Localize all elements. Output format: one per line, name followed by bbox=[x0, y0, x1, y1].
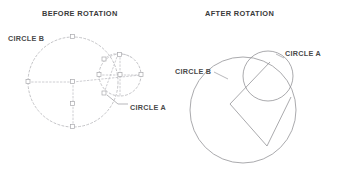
circle-b-leader-line bbox=[214, 72, 228, 79]
node-marker bbox=[71, 102, 75, 106]
circle-a-leader-line bbox=[107, 95, 128, 104]
rotation-wedge bbox=[230, 62, 291, 146]
before-circle-b-label: CIRCLE B bbox=[8, 34, 44, 43]
node-marker bbox=[139, 73, 143, 77]
node-marker bbox=[97, 73, 101, 77]
diagram-canvas: BEFORE ROTATION bbox=[0, 0, 344, 173]
node-marker bbox=[71, 35, 75, 39]
panel-before-title: BEFORE ROTATION bbox=[42, 9, 118, 18]
after-circle-b-label: CIRCLE B bbox=[175, 67, 211, 76]
rotation-diagram: BEFORE ROTATION bbox=[0, 0, 344, 173]
node-marker bbox=[26, 80, 30, 84]
node-marker bbox=[71, 125, 75, 129]
panel-after-title: AFTER ROTATION bbox=[205, 9, 274, 18]
node-marker bbox=[102, 57, 106, 61]
after-circle-a-label: CIRCLE A bbox=[285, 49, 321, 58]
node-marker-center-a bbox=[118, 73, 122, 77]
node-marker-center-b bbox=[71, 80, 75, 84]
circle-a-outline bbox=[243, 51, 293, 101]
panel-before-rotation: BEFORE ROTATION bbox=[8, 9, 166, 129]
construction-line-horizontal bbox=[73, 75, 141, 82]
node-marker bbox=[118, 53, 122, 57]
panel-after-rotation: AFTER ROTATION CIRCLE B CIRCLE A bbox=[175, 9, 321, 163]
before-circle-a-label: CIRCLE A bbox=[130, 103, 166, 112]
node-marker bbox=[102, 91, 106, 95]
